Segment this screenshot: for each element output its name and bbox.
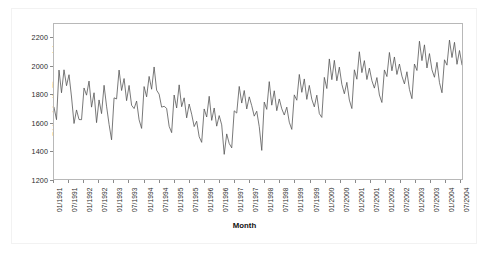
x-axis-tick-mark: [234, 180, 235, 183]
x-axis-tick-label: 01/2002: [388, 187, 395, 212]
plot-area: [53, 23, 463, 180]
x-axis-tick-mark: [340, 180, 341, 183]
x-axis-tick-mark: [98, 180, 99, 183]
x-axis-tick-label: 07/2004: [463, 187, 470, 212]
x-axis-tick-label: 01/1991: [56, 187, 63, 212]
y-axis-tick-label: 2200: [14, 33, 48, 42]
x-axis-tick-label: 01/1997: [237, 187, 244, 212]
x-axis-tick-mark: [325, 180, 326, 183]
ridership-line-series: [54, 24, 462, 179]
x-axis-tick-mark: [355, 180, 356, 183]
y-axis-tick-label: 1200: [14, 176, 48, 185]
x-axis-tick-mark: [264, 180, 265, 183]
x-axis-tick-label: 01/1993: [116, 187, 123, 212]
x-axis-tick-label: 07/2002: [403, 187, 410, 212]
x-axis-tick-mark: [113, 180, 114, 183]
x-axis-tick-mark: [204, 180, 205, 183]
x-axis-tick-mark: [400, 180, 401, 183]
x-axis-tick-label: 07/1999: [313, 187, 320, 212]
series-polyline: [54, 40, 462, 154]
x-axis-tick-mark: [219, 180, 220, 183]
x-axis-tick-label: 07/1993: [131, 187, 138, 212]
x-axis-tick-mark: [189, 180, 190, 183]
x-axis-tick-label: 01/1992: [86, 187, 93, 212]
x-axis-tick-label: 01/2003: [418, 187, 425, 212]
x-axis-tick-mark: [460, 180, 461, 183]
x-axis-tick-label: 07/2000: [343, 187, 350, 212]
x-axis-tick-mark: [415, 180, 416, 183]
y-axis-tick-label: 2000: [14, 62, 48, 71]
x-axis-tick-label: 07/1992: [101, 187, 108, 212]
x-axis-tick-label: 01/1995: [177, 187, 184, 212]
x-axis-tick-label: 07/1994: [162, 187, 169, 212]
x-axis-tick-label: 07/1991: [71, 187, 78, 212]
x-axis-tick-mark: [385, 180, 386, 183]
x-axis-tick-label: 07/1995: [192, 187, 199, 212]
x-axis-tick-label: 07/1997: [252, 187, 259, 212]
x-axis-tick-label: 01/2000: [328, 187, 335, 212]
x-axis-tick-mark: [83, 180, 84, 183]
y-axis-title-wrapper: Ridership (In Thousands): [14, 40, 28, 160]
x-axis-tick-mark: [174, 180, 175, 183]
x-axis-tick-mark: [53, 180, 54, 183]
x-axis-tick-mark: [144, 180, 145, 183]
x-axis-tick-mark: [249, 180, 250, 183]
x-axis-tick-label: 01/1999: [297, 187, 304, 212]
x-axis-tick-label: 07/1998: [282, 187, 289, 212]
x-axis-tick-label: 01/2001: [358, 187, 365, 212]
x-axis-title: Month: [0, 221, 489, 230]
x-axis-tick-label: 07/2001: [373, 187, 380, 212]
x-axis-tick-label: 01/1998: [267, 187, 274, 212]
x-axis-tick-mark: [370, 180, 371, 183]
y-axis-tick-label: 1600: [14, 119, 48, 128]
x-axis-tick-label: 07/1996: [222, 187, 229, 212]
y-axis-tick-label: 1400: [14, 147, 48, 156]
x-axis-tick-mark: [279, 180, 280, 183]
x-axis-tick-mark: [430, 180, 431, 183]
y-axis-tick-label: 1800: [14, 90, 48, 99]
x-axis-tick-mark: [445, 180, 446, 183]
chart-figure: Ridership (In Thousands) 120014001600180…: [0, 0, 489, 255]
x-axis-tick-label: 07/2003: [433, 187, 440, 212]
x-axis-tick-mark: [128, 180, 129, 183]
x-axis-tick-label: 01/1994: [147, 187, 154, 212]
x-axis-tick-mark: [294, 180, 295, 183]
x-axis-tick-label: 01/1996: [207, 187, 214, 212]
x-axis-tick-mark: [159, 180, 160, 183]
x-axis-tick-mark: [310, 180, 311, 183]
x-axis-tick-label: 01/2004: [448, 187, 455, 212]
x-axis-tick-mark: [68, 180, 69, 183]
